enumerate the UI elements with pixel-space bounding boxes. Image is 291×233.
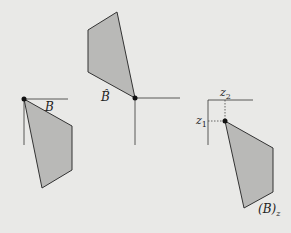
figure-b: B: [22, 97, 73, 189]
origin-dot: [22, 97, 27, 102]
label-b-z: (B)z: [258, 202, 281, 218]
origin-dot: [133, 96, 138, 101]
set-b-z-polygon: [225, 121, 273, 208]
label-z1: z1: [195, 114, 207, 129]
label-b: B: [44, 100, 54, 114]
figure-b-hat: B̂: [88, 12, 180, 145]
point-z-dot: [223, 119, 228, 124]
label-z2: z2: [219, 86, 231, 101]
label-b-hat: B̂: [100, 89, 110, 104]
set-b-hat-polygon: [88, 12, 135, 98]
figure-b-z: z2 z1 (B)z: [195, 86, 281, 218]
diagram-canvas: B B̂ z2 z1 (B)z: [0, 0, 291, 233]
